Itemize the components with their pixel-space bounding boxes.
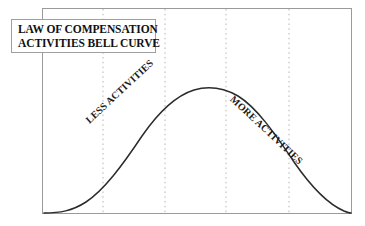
bell-curve-figure: LESS ACTIVITIES MORE ACTIVITIES LAW OF C…: [0, 0, 365, 226]
title-line-2: ACTIVITIES BELL CURVE: [18, 36, 160, 50]
bell-curve-path: [44, 88, 351, 213]
title-line-1: LAW OF COMPENSATION: [18, 22, 158, 36]
title-box: LAW OF COMPENSATION ACTIVITIES BELL CURV…: [11, 19, 156, 53]
